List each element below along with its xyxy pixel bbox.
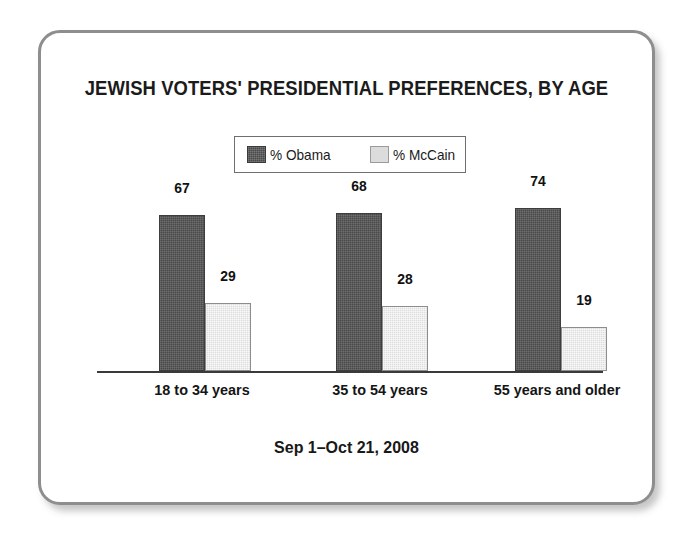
category-label-35-to-54: 35 to 54 years: [292, 381, 469, 399]
category-label-18-to-34: 18 to 34 years: [114, 381, 291, 399]
chart-subtitle-date-range: Sep 1–Oct 21, 2008: [59, 438, 633, 458]
x-axis-tick-labels: 18 to 34 years 35 to 54 years 55 years a…: [97, 381, 603, 405]
legend-label-mccain: % McCain: [393, 147, 455, 163]
chart-legend: % Obama % McCain: [234, 136, 466, 173]
category-label-55-and-older: 55 years and older: [464, 381, 650, 399]
legend-item-mccain[interactable]: % McCain: [370, 146, 459, 163]
plot-area: 67 29 68 28 74 19: [97, 208, 603, 373]
bar-obama-35-to-54[interactable]: [336, 213, 382, 370]
bar-value-mccain-55-and-older: 19: [563, 291, 606, 308]
bar-value-obama-18-to-34: 67: [161, 179, 204, 196]
legend-label-obama: % Obama: [270, 147, 331, 163]
figure-frame: JEWISH VOTERS' PRESIDENTIAL PREFERENCES,…: [38, 30, 655, 505]
legend-swatch-obama-icon: [247, 146, 266, 163]
bar-mccain-35-to-54[interactable]: [382, 306, 428, 371]
chart-title: JEWISH VOTERS' PRESIDENTIAL PREFERENCES,…: [58, 77, 635, 100]
legend-item-obama[interactable]: % Obama: [247, 146, 334, 163]
bar-value-mccain-35-to-54: 28: [384, 270, 427, 287]
legend-swatch-mccain-icon: [370, 146, 389, 163]
bar-mccain-55-and-older[interactable]: [561, 327, 607, 371]
bar-obama-55-and-older[interactable]: [515, 208, 561, 371]
bar-value-mccain-18-to-34: 29: [207, 267, 250, 284]
bar-value-obama-35-to-54: 68: [338, 177, 381, 194]
bar-value-obama-55-and-older: 74: [517, 172, 560, 189]
bar-mccain-18-to-34[interactable]: [205, 303, 251, 370]
x-axis-line: [97, 371, 603, 374]
bar-obama-18-to-34[interactable]: [159, 215, 205, 370]
